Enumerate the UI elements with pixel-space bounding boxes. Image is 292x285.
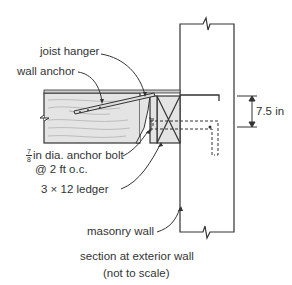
label-dimension: 7.5 in bbox=[256, 106, 284, 118]
fraction: 78 bbox=[26, 148, 32, 163]
caption-title: section at exterior wall bbox=[80, 251, 194, 263]
label-masonry-wall: masonry wall bbox=[87, 226, 154, 238]
label-ledger: 3 × 12 ledger bbox=[41, 184, 108, 196]
masonry-wall bbox=[180, 18, 234, 238]
section-drawing bbox=[0, 0, 292, 285]
label-anchor-spacing: @ 2 ft o.c. bbox=[35, 164, 88, 176]
label-wall-anchor: wall anchor bbox=[17, 66, 75, 78]
caption-note: (not to scale) bbox=[103, 268, 169, 280]
ledger bbox=[150, 96, 180, 143]
label-anchor-bolt: 78in dia. anchor bolt bbox=[26, 148, 124, 163]
label-joist-hanger: joist hanger bbox=[40, 46, 99, 58]
dimension-line bbox=[237, 96, 257, 127]
